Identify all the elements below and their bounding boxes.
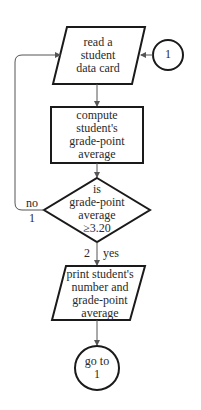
connector-start-label: 1 [153,48,183,61]
decision-text: is grade-point average ≥3.20 [57,183,137,235]
yes-number: 2 [80,247,94,260]
connector-end-text: go to 1 [77,355,117,381]
print-text: print student's number and grade-point a… [54,268,146,320]
no-label: no [22,197,42,210]
no-number: 1 [22,212,42,225]
compute-line: average [51,148,143,161]
compute-text: compute student's grade-point average [51,109,143,161]
yes-label: yes [101,247,121,260]
print-line: average [54,307,146,320]
flowchart: 1 read a student data card compute stude… [0,0,201,410]
connector-end-line: 1 [77,368,117,381]
decision-line: ≥3.20 [57,222,137,235]
read-card-text: read a student data card [57,36,139,75]
read-card-line: data card [57,62,139,75]
